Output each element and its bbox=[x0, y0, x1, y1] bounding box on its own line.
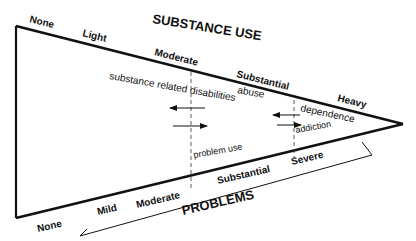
diagram-canvas: None Light SUBSTANCE USE Moderate Substa… bbox=[0, 0, 416, 241]
top-level-moderate: Moderate bbox=[154, 46, 200, 68]
bottom-level-moderate: Moderate bbox=[135, 189, 181, 210]
label-abuse: abuse bbox=[237, 84, 266, 100]
substance-use-title: SUBSTANCE USE bbox=[152, 11, 264, 43]
bottom-level-none: None bbox=[36, 218, 63, 234]
problems-bracket bbox=[80, 142, 372, 236]
label-problem-use: problem use bbox=[193, 142, 244, 160]
bottom-level-mild: Mild bbox=[96, 202, 118, 217]
label-addiction: addiction bbox=[295, 119, 332, 135]
top-level-light: Light bbox=[82, 27, 109, 44]
problems-title: PROBLEMS bbox=[180, 187, 255, 218]
label-substance-related-disabilities: substance related disabilities bbox=[109, 70, 237, 103]
top-level-none: None bbox=[29, 13, 56, 30]
